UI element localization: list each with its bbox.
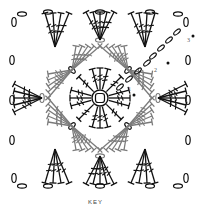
stitch-top: [73, 149, 80, 150]
stitch-top: [128, 102, 130, 109]
key-heading: KEY: [88, 199, 103, 205]
stitch-top: [104, 126, 111, 128]
stitch-bar: [139, 170, 144, 171]
stitch-top: [109, 44, 115, 48]
chain-stitch: [18, 12, 27, 16]
stitch-bar: [121, 101, 122, 106]
chain-stitch: [143, 59, 151, 67]
treble-stitch: [158, 98, 186, 105]
stitch-bar: [93, 116, 98, 117]
stitch-bar: [103, 76, 108, 77]
stitch-bar: [48, 164, 53, 165]
treble-stitch: [109, 100, 129, 105]
stitch-top: [151, 71, 152, 78]
stitch-bar: [102, 80, 107, 81]
stitch-top: [85, 44, 91, 48]
chain-stitch: [146, 184, 155, 188]
stitch-top: [13, 88, 15, 95]
stitch-top: [150, 83, 154, 89]
stitch-top: [47, 71, 48, 78]
stitch-bar: [82, 91, 83, 96]
stitch-top: [58, 182, 65, 183]
stitch-bar: [92, 119, 97, 120]
stitch-top: [73, 45, 80, 46]
chain-stitch: [134, 67, 142, 75]
stitch-top: [89, 126, 96, 128]
treble-stitch: [131, 149, 145, 183]
chain-stitch: [174, 184, 183, 188]
stitch-bar: [78, 90, 79, 95]
stitch-top: [47, 119, 48, 126]
treble-stitch: [131, 13, 145, 47]
stitch-top: [136, 182, 143, 183]
stitch-top: [104, 183, 111, 185]
stitch-top: [136, 12, 143, 13]
round-3-label: 3: [187, 37, 190, 43]
chain-stitch: [173, 28, 181, 36]
chain-stitch: [174, 12, 183, 16]
treble-stitch: [106, 104, 121, 119]
treble-stitch: [79, 104, 94, 119]
stitch-top: [151, 119, 152, 126]
stitch-top: [121, 149, 128, 150]
magic-ring: [92, 90, 108, 106]
chain-stitch: [149, 52, 157, 60]
treble-stitch: [14, 91, 42, 98]
round-1-start-dot: [133, 94, 136, 97]
ring-inner: [96, 94, 105, 103]
chain-stitch: [125, 75, 133, 83]
stitch-bar: [147, 31, 152, 32]
crochet-chart: [0, 0, 199, 208]
chain-stitch: [12, 174, 16, 183]
chain-stitch: [12, 18, 16, 27]
stitch-top: [13, 102, 15, 109]
chain-stitch: [116, 83, 124, 91]
chain-stitch: [10, 136, 14, 145]
treble-stitch: [92, 107, 97, 127]
round-3-start-dot: [192, 35, 195, 38]
stitch-top: [85, 148, 91, 152]
treble-stitch: [93, 156, 100, 184]
stitch-top: [150, 107, 154, 113]
round-2-start-dot: [167, 62, 170, 65]
round-1-label: 1: [128, 86, 131, 92]
stitch-top: [109, 148, 115, 152]
treble-stitch: [55, 13, 69, 47]
chain-stitch: [186, 56, 190, 65]
stitch-top: [89, 68, 96, 70]
chain-stitch: [157, 44, 165, 52]
stitch-top: [58, 12, 65, 13]
chain-stitch: [18, 184, 27, 188]
treble-stitch: [139, 149, 145, 183]
treble-stitch: [79, 77, 94, 92]
stitch-top: [104, 68, 111, 70]
chain-stitch: [184, 18, 188, 27]
stitch-bar: [46, 170, 51, 171]
chain-stitch: [165, 36, 173, 44]
chain-stitch: [184, 174, 188, 183]
stitch-top: [90, 183, 97, 185]
stitch-top: [70, 102, 72, 109]
stitch-top: [185, 88, 187, 95]
round-2-label: 2: [154, 67, 157, 73]
chain-stitch: [10, 56, 14, 65]
stitch-bar: [56, 25, 61, 26]
stitch-bar: [149, 25, 154, 26]
stitch-bar: [118, 100, 119, 105]
stitch-top: [46, 107, 50, 113]
treble-stitch: [100, 12, 107, 40]
stitch-top: [70, 87, 72, 94]
treble-stitch: [71, 90, 91, 95]
treble-stitch: [55, 149, 69, 183]
treble-stitch: [55, 13, 61, 47]
stitch-top: [185, 102, 187, 109]
chain-stitch: [186, 136, 190, 145]
treble-stitch: [102, 69, 107, 89]
stitch-top: [46, 83, 50, 89]
stitch-top: [121, 45, 128, 46]
